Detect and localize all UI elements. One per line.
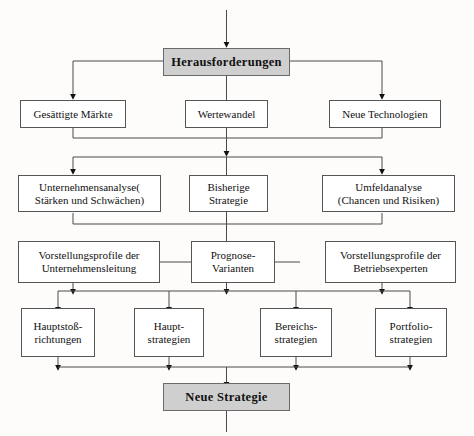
node-vorstellungsprofile-betriebsexperten[interactable]: Vorstellungsprofile der Betriebsexperten (325, 241, 456, 283)
node-bereichsstrategien[interactable]: Bereichs- strategien (260, 308, 332, 357)
node-umfeldanalyse-label: Umfeldanalyse (Chancen und Risiken) (326, 181, 451, 207)
node-bereichsstrategien-label: Bereichs- strategien (264, 320, 328, 346)
node-neue-technologien-label: Neue Technologien (333, 108, 437, 121)
node-portfoliostrategien[interactable]: Portfolio- strategien (375, 308, 447, 357)
node-gesaettigte-maerkte[interactable]: Gesättigte Märkte (20, 100, 126, 128)
node-vorstellungsprofile-unternehmensleitung[interactable]: Vorstellungsprofile der Unternehmensleit… (18, 241, 160, 283)
node-vorstellungsprofile-unternehmensleitung-label: Vorstellungsprofile der Unternehmensleit… (22, 249, 156, 275)
node-vorstellungsprofile-betriebsexperten-label: Vorstellungsprofile der Betriebsexperten (329, 249, 452, 275)
node-hauptstossrichtungen[interactable]: Hauptstoß- richtungen (21, 308, 95, 357)
node-hauptstrategien-label: Haupt- strategien (138, 320, 200, 346)
node-hauptstossrichtungen-label: Hauptstoß- richtungen (25, 320, 91, 346)
node-prognose-varianten-label: Prognose- Varianten (195, 249, 271, 275)
node-gesaettigte-maerkte-label: Gesättigte Märkte (24, 108, 122, 121)
connector-challenge-right (290, 61, 382, 95)
node-herausforderungen[interactable]: Herausforderungen (163, 48, 290, 76)
node-umfeldanalyse[interactable]: Umfeldanalyse (Chancen und Risiken) (322, 175, 455, 212)
node-wertewandel[interactable]: Wertewandel (185, 100, 268, 128)
node-unternehmensanalyse[interactable]: Unternehmensanalyse( Stärken und Schwäch… (18, 175, 161, 212)
node-bisherige-strategie[interactable]: Bisherige Strategie (189, 175, 268, 212)
node-bisherige-strategie-label: Bisherige Strategie (193, 181, 264, 207)
connector-gather-challenges (73, 128, 382, 138)
connector-gather-analysis (73, 213, 382, 224)
node-prognose-varianten[interactable]: Prognose- Varianten (191, 241, 275, 283)
node-neue-strategie[interactable]: Neue Strategie (163, 383, 290, 411)
node-portfoliostrategien-label: Portfolio- strategien (379, 320, 443, 346)
node-hauptstrategien[interactable]: Haupt- strategien (134, 308, 204, 357)
flowchart-diagram: Herausforderungen Gesättigte Märkte Wert… (0, 0, 474, 436)
node-herausforderungen-label: Herausforderungen (167, 55, 286, 70)
connector-challenge-left (73, 61, 163, 95)
node-neue-strategie-label: Neue Strategie (167, 390, 286, 405)
node-wertewandel-label: Wertewandel (189, 108, 264, 121)
node-unternehmensanalyse-label: Unternehmensanalyse( Stärken und Schwäch… (22, 181, 157, 207)
node-neue-technologien[interactable]: Neue Technologien (329, 100, 441, 128)
